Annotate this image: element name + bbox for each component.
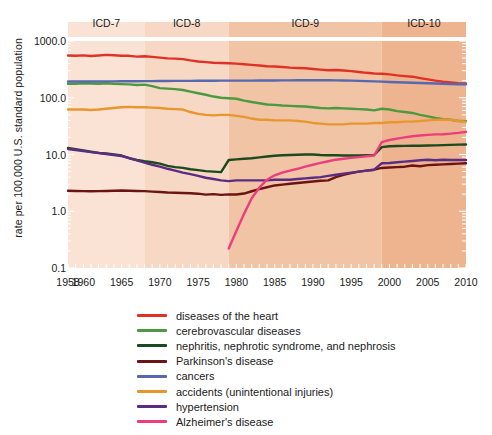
legend-item-label: Alzheimer's disease [176, 416, 273, 428]
legend-color-swatch [137, 420, 167, 423]
icd-band-label-3: ICD-9 [292, 17, 319, 29]
legend-color-swatch [137, 360, 167, 363]
plot-area [0, 0, 492, 300]
icd-band-label-2: ICD-8 [173, 17, 200, 29]
legend-item[interactable]: hypertension [0, 399, 239, 414]
legend-item-label: cerebrovascular diseases [176, 325, 301, 337]
x-tick-label: 1970 [148, 276, 171, 288]
icd-band-label-4: ICD-10 [407, 17, 440, 29]
chart-legend: diseases of the heartcerebrovascular dis… [0, 300, 492, 435]
legend-item[interactable]: cerebrovascular diseases [0, 323, 301, 338]
line-chart-figure: rate per 100,000 U.S. standard populatio… [0, 0, 492, 300]
y-tick-label: 0.1 [20, 263, 66, 273]
legend-color-swatch [137, 375, 167, 378]
legend-item-label: accidents (unintentional injuries) [176, 386, 333, 398]
x-tick-label: 1985 [263, 276, 286, 288]
legend-item-label: Parkinson's disease [176, 355, 274, 367]
x-tick-label: 1960 [72, 276, 95, 288]
y-tick-label: 10.0 [20, 150, 66, 160]
y-tick-label: 100.0 [20, 93, 66, 103]
y-tick-label: 1000.0 [20, 36, 66, 46]
y-tick-label: 1.0 [20, 206, 66, 216]
legend-color-swatch [137, 329, 167, 332]
legend-item-label: diseases of the heart [176, 310, 278, 322]
legend-item[interactable]: nephritis, nephrotic syndrome, and nephr… [0, 338, 396, 353]
legend-item[interactable]: accidents (unintentional injuries) [0, 384, 333, 399]
x-tick-label: 1975 [186, 276, 209, 288]
x-tick-label: 1980 [225, 276, 248, 288]
icd-band-label-1: ICD-7 [93, 17, 120, 29]
legend-color-swatch [137, 390, 167, 393]
x-tick-label: 2000 [378, 276, 401, 288]
legend-item-label: nephritis, nephrotic syndrome, and nephr… [176, 340, 396, 352]
legend-item[interactable]: Alzheimer's disease [0, 414, 273, 429]
legend-item-label: hypertension [176, 401, 239, 413]
x-tick-label: 2005 [416, 276, 439, 288]
legend-item-label: cancers [176, 370, 215, 382]
chart-container: rate per 100,000 U.S. standard populatio… [0, 0, 492, 435]
legend-item[interactable]: cancers [0, 369, 215, 384]
x-tick-label: 2010 [454, 276, 477, 288]
y-axis-tick-labels: 1000.0100.010.01.00.1 [14, 0, 66, 300]
legend-item[interactable]: Parkinson's disease [0, 354, 274, 369]
icd-band-1 [68, 22, 145, 268]
legend-color-swatch [137, 314, 167, 317]
legend-item[interactable]: diseases of the heart [0, 308, 278, 323]
legend-color-swatch [137, 405, 167, 408]
x-tick-label: 1995 [340, 276, 363, 288]
x-tick-label: 1990 [301, 276, 324, 288]
x-tick-label: 1965 [110, 276, 133, 288]
icd-band-3 [229, 22, 382, 268]
legend-color-swatch [137, 344, 167, 347]
